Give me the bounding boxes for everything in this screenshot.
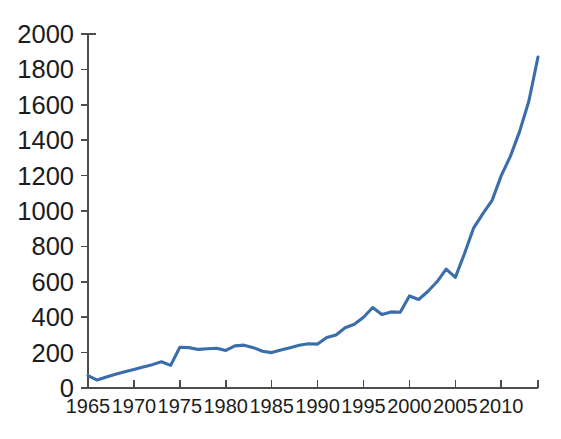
y-tick-label: 1800: [17, 55, 74, 83]
x-tick-label: 1965: [66, 395, 111, 417]
series-line: [88, 57, 538, 380]
x-axis-tick-labels: 1965197019751980198519901995200020052010: [66, 395, 524, 417]
x-tick-label: 1995: [341, 395, 386, 417]
y-axis-tick-marks: [81, 34, 88, 388]
x-tick-label: 1970: [112, 395, 157, 417]
y-tick-label: 1200: [17, 162, 74, 190]
data-series-group: [88, 57, 538, 380]
x-tick-label: 1975: [158, 395, 203, 417]
y-tick-label: 2000: [17, 20, 74, 48]
y-tick-label: 400: [31, 303, 74, 331]
x-tick-label: 1980: [204, 395, 249, 417]
y-tick-label: 800: [31, 232, 74, 260]
axes-group: [81, 34, 538, 388]
line-chart: 0200400600800100012001400160018002000 19…: [0, 0, 561, 439]
y-tick-label: 1400: [17, 126, 74, 154]
y-tick-label: 1000: [17, 197, 74, 225]
y-tick-label: 200: [31, 339, 74, 367]
y-tick-label: 1600: [17, 91, 74, 119]
axis-frame: [88, 34, 538, 388]
x-tick-label: 1990: [295, 395, 340, 417]
y-tick-label: 600: [31, 268, 74, 296]
chart-container: 0200400600800100012001400160018002000 19…: [0, 0, 561, 439]
x-tick-label: 2005: [433, 395, 478, 417]
y-axis-tick-labels: 0200400600800100012001400160018002000: [17, 20, 74, 402]
x-axis-tick-marks: [88, 380, 538, 388]
x-tick-label: 2000: [387, 395, 432, 417]
x-tick-label: 1985: [249, 395, 294, 417]
x-tick-label: 2010: [479, 395, 524, 417]
